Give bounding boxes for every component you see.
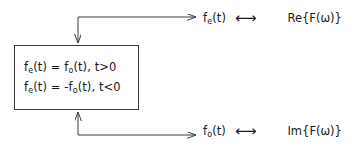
equation-1-condition: , t>0 — [87, 60, 116, 74]
equation-1-relation: = — [51, 60, 61, 74]
bidirectional-arrow-icon: ⟷ — [235, 124, 257, 139]
even-branch-connector — [78, 17, 196, 43]
odd-function-subscript: o — [207, 130, 212, 139]
equation-1-rhs-subscript: o — [68, 66, 73, 75]
equation-1-lhs-arg: (t) — [33, 60, 47, 74]
even-function-label: fe(t) — [203, 13, 226, 25]
even-function-argument: (t) — [212, 11, 226, 25]
odd-function-argument: (t) — [212, 124, 226, 138]
even-transform-label: Re{F(ω)} — [288, 13, 342, 25]
equation-1-rhs-arg: (t) — [73, 60, 87, 74]
diagram-canvas: fe(t) = fo(t), t>0 fe(t) = -fo(t), t<0 f… — [0, 0, 355, 153]
equation-2-rhs-arg: (t) — [78, 80, 92, 94]
equation-line-1: fe(t) = fo(t), t>0 — [24, 62, 117, 74]
equation-line-2: fe(t) = -fo(t), t<0 — [24, 82, 121, 94]
equation-2-condition: , t<0 — [91, 80, 120, 94]
equation-2-lhs-arg: (t) — [33, 80, 47, 94]
equation-1-lhs-subscript: e — [28, 66, 33, 75]
equation-2-rhs-subscript: o — [73, 86, 78, 95]
odd-function-label: fo(t) — [203, 126, 226, 138]
odd-transform-pair-label: fo(t) ⟷ Im{F(ω)} — [203, 124, 342, 139]
bidirectional-arrow-icon: ⟷ — [235, 11, 257, 26]
odd-branch-connector — [78, 112, 196, 135]
equation-2-lhs-subscript: e — [28, 86, 33, 95]
even-transform-pair-label: fe(t) ⟷ Re{F(ω)} — [203, 11, 342, 26]
odd-transform-label: Im{F(ω)} — [287, 126, 341, 138]
equation-box: fe(t) = fo(t), t>0 fe(t) = -fo(t), t<0 — [14, 45, 139, 110]
even-function-subscript: e — [207, 17, 212, 26]
equation-2-relation: = — [51, 80, 61, 94]
